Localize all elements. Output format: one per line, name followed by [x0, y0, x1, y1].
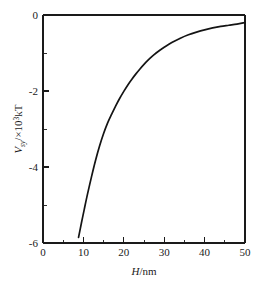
y-tick-label: 0 — [33, 9, 39, 21]
x-tick-label: 30 — [159, 246, 171, 258]
y-axis-tick-labels: 0 -2 -4 -6 — [29, 9, 39, 249]
plot-frame — [43, 15, 245, 243]
y-axis-label-slash: /×10 — [12, 120, 24, 141]
y-tick-label: -4 — [29, 161, 39, 173]
y-tick-label: -2 — [29, 85, 38, 97]
x-axis-label: H/nm — [130, 265, 157, 277]
x-tick-label: 40 — [199, 246, 211, 258]
x-tick-label: 50 — [240, 246, 252, 258]
x-tick-label: 10 — [78, 246, 90, 258]
line-chart: 0 10 20 30 40 50 0 -2 -4 -6 H/nm Vsy/×10… — [0, 0, 265, 283]
x-tick-label: 20 — [118, 246, 130, 258]
y-tick-label: -6 — [29, 237, 39, 249]
x-axis-tick-labels: 0 10 20 30 40 50 — [40, 246, 251, 258]
data-series-curve — [79, 23, 245, 238]
x-axis-label-unit: /nm — [139, 265, 157, 277]
x-tick-label: 0 — [40, 246, 46, 258]
chart-figure: 0 10 20 30 40 50 0 -2 -4 -6 H/nm Vsy/×10… — [0, 0, 265, 283]
y-axis-label-unit: kT — [12, 104, 24, 117]
y-axis-label: Vsy/×103kT — [12, 104, 27, 154]
